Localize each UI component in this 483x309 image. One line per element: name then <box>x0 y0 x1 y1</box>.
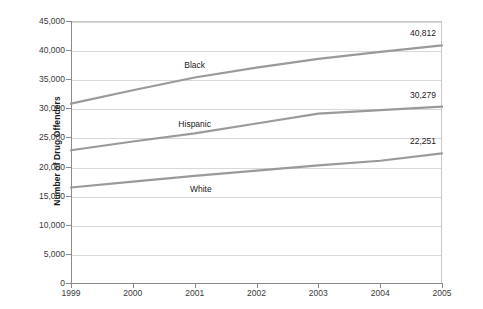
x-axis-tick-label: 2004 <box>371 288 390 298</box>
y-axis-tick-mark <box>66 225 71 226</box>
y-axis-tick-mark <box>66 196 71 197</box>
y-axis-title-wrap: Number of Drug Offenders <box>4 18 18 283</box>
y-axis-tick-mark <box>66 108 71 109</box>
end-value-label-white: 22,251 <box>410 136 436 146</box>
series-label-white: White <box>188 184 214 194</box>
x-axis-tick-label: 2005 <box>433 288 452 298</box>
y-axis-tick-label: 15,000 <box>39 191 65 201</box>
y-axis-tick-label: 30,000 <box>39 103 65 113</box>
x-axis-tick-label: 1999 <box>62 288 81 298</box>
y-axis-tick-mark <box>66 254 71 255</box>
y-axis-tick-mark <box>66 50 71 51</box>
y-axis-tick-label: 25,000 <box>39 132 65 142</box>
y-axis-tick-label: 20,000 <box>39 162 65 172</box>
series-label-hispanic: Hispanic <box>176 119 213 129</box>
y-axis-tick-label: 35,000 <box>39 74 65 84</box>
end-value-label-hispanic: 30,279 <box>410 90 436 100</box>
y-axis-tick-mark <box>66 137 71 138</box>
y-axis-tick-mark <box>66 167 71 168</box>
x-axis-tick-label: 2000 <box>123 288 142 298</box>
series-line-hispanic <box>71 107 442 151</box>
y-axis-tick-label: 40,000 <box>39 45 65 55</box>
series-line-white <box>71 153 442 187</box>
chart-title <box>0 0 483 9</box>
x-axis-tick-label: 2001 <box>185 288 204 298</box>
y-axis-tick-label: 45,000 <box>39 16 65 26</box>
series-label-black: Black <box>182 60 207 70</box>
end-value-label-black: 40,812 <box>410 28 436 38</box>
y-axis-tick-mark <box>66 79 71 80</box>
x-axis-tick-label: 2003 <box>309 288 328 298</box>
y-axis-tick-labels: 05,00010,00015,00020,00025,00030,00035,0… <box>20 0 65 309</box>
y-axis-tick-mark <box>66 21 71 22</box>
line-chart: Number of Drug Offenders 05,00010,00015,… <box>0 0 483 309</box>
y-axis-tick-label: 5,000 <box>44 249 65 259</box>
y-axis-tick-label: 10,000 <box>39 220 65 230</box>
series-line-black <box>71 45 442 103</box>
x-axis-tick-label: 2002 <box>247 288 266 298</box>
series-lines <box>71 21 442 283</box>
y-axis-tick-label: 0 <box>60 278 65 288</box>
